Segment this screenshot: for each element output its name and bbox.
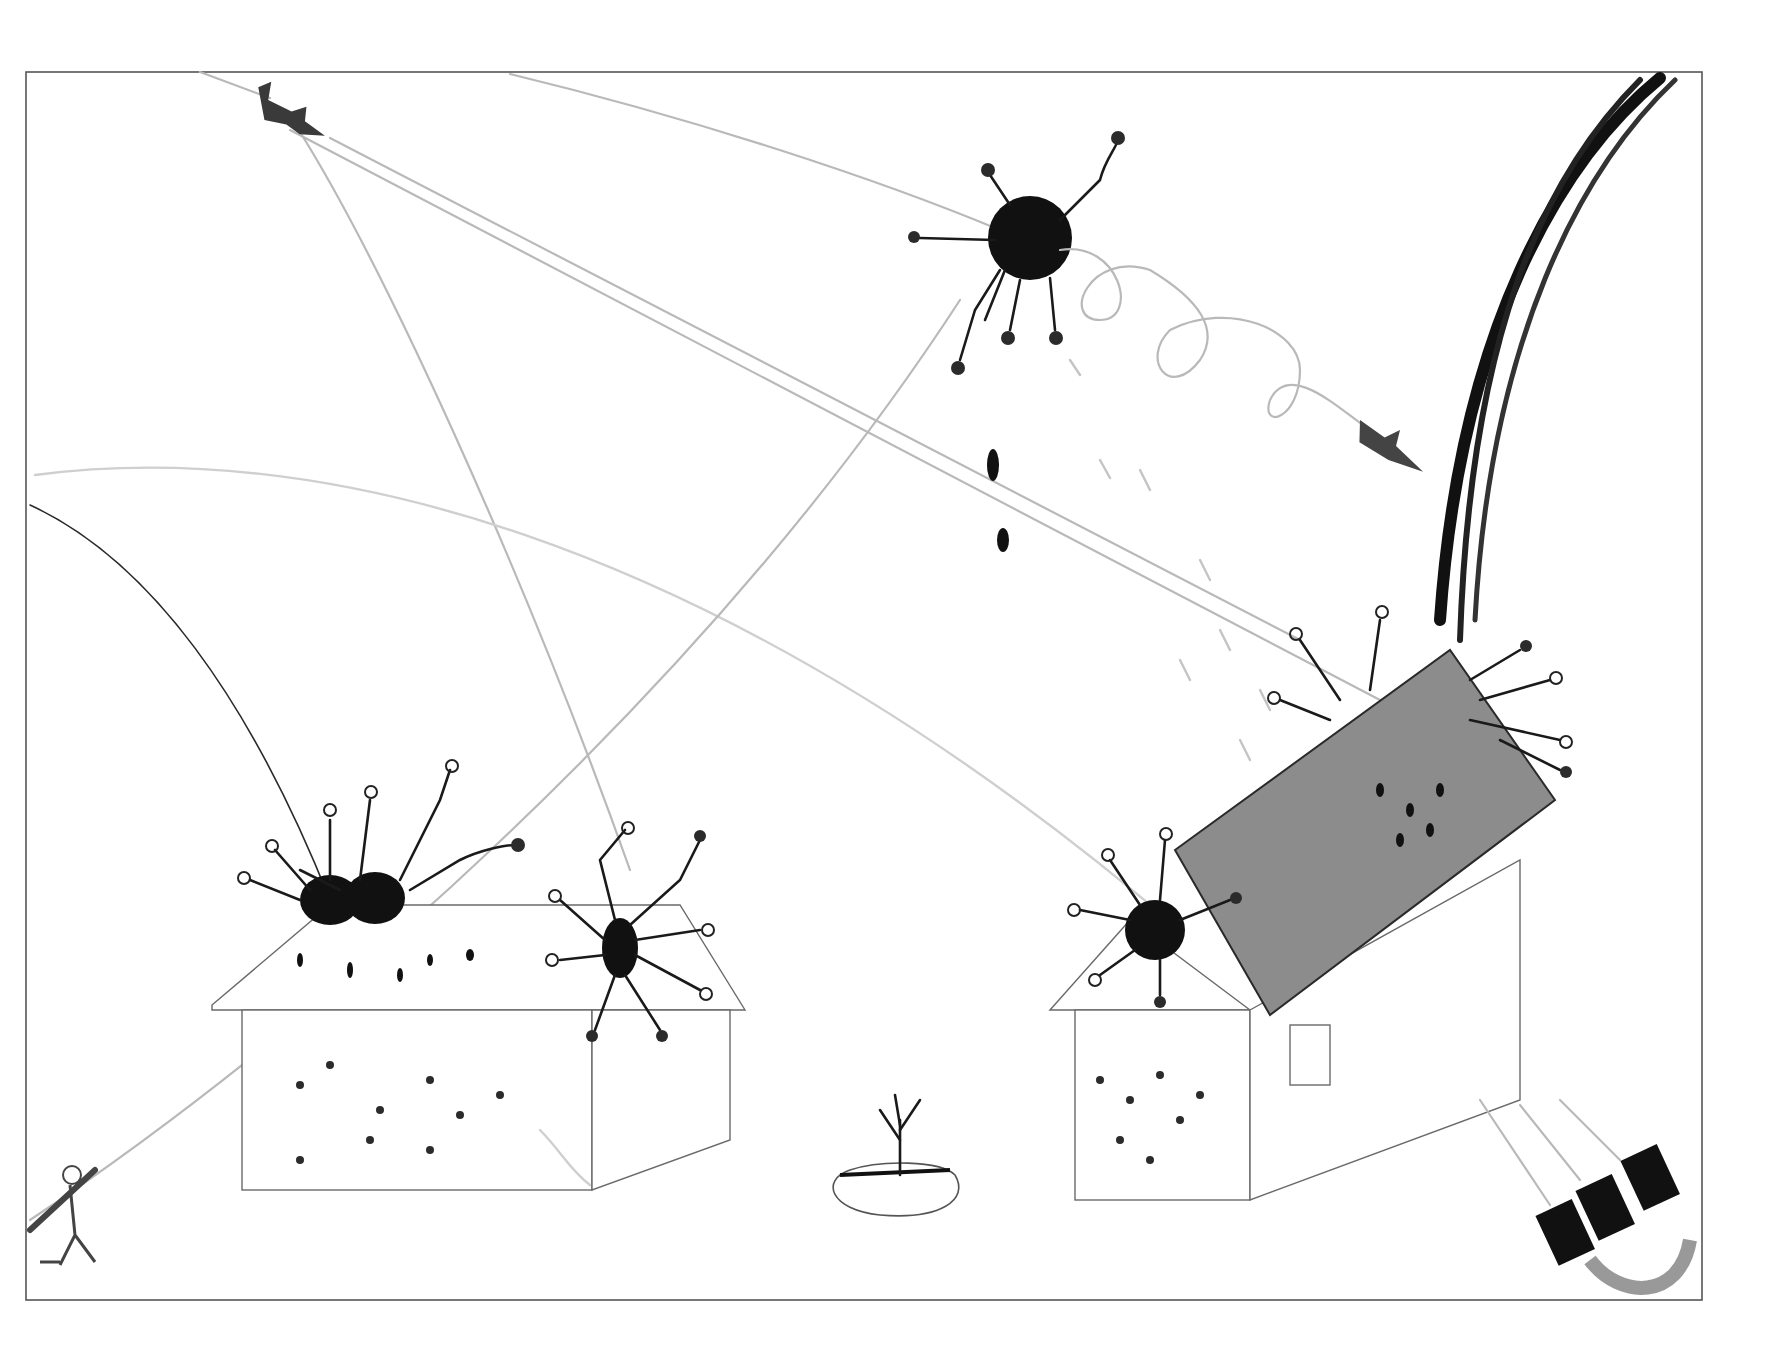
aircraft-icon — [248, 78, 336, 143]
missile-trail-left — [30, 505, 330, 900]
left-house — [212, 905, 745, 1190]
helicopter-icon — [1350, 411, 1436, 477]
tree-on-mound-icon — [833, 1095, 959, 1216]
figure-with-weapon-icon — [30, 1166, 95, 1265]
missile-pod-icon — [1480, 1100, 1690, 1288]
debris-dashes — [1070, 360, 1270, 760]
central-explosion-icon — [908, 131, 1125, 552]
smoke-trail-icon — [1440, 78, 1675, 640]
drawing-canvas — [0, 0, 1768, 1362]
loop-trail — [1060, 249, 1370, 430]
